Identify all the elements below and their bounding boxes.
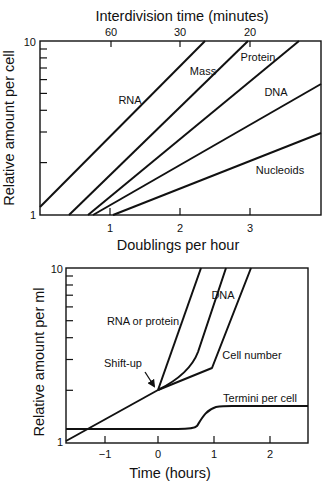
y-axis-ticks	[40, 49, 47, 163]
x-axis-label: Doublings per hour	[117, 237, 240, 253]
label-nucleoids: Nucleoids	[256, 164, 305, 176]
figure-canvas: Interdivision time (minutes) 60 30 20	[0, 0, 331, 493]
top-chart: Interdivision time (minutes) 60 30 20	[1, 8, 321, 253]
bottom-x-axis-ticks	[105, 436, 270, 443]
y-tick-label-10: 10	[24, 36, 36, 48]
bottom-chart: 10 1 −1 0 1 2 Time (hours) Relative amou…	[31, 263, 308, 481]
y-axis-label: Relative amount per cell	[1, 50, 17, 206]
bottom-x-tick-label-2: 2	[267, 448, 273, 460]
series-baseline-line	[66, 390, 158, 441]
label-cell-number: Cell number	[222, 349, 282, 361]
bottom-y-axis-label: Relative amount per ml	[31, 287, 47, 436]
label-rna: RNA	[118, 94, 142, 106]
bottom-y-tick-label-1: 1	[57, 436, 63, 448]
bottom-x-tick-label-0: 0	[155, 448, 161, 460]
shift-up-arrow-icon	[145, 372, 154, 386]
label-termini-per-cell: Termini per cell	[223, 392, 297, 404]
label-dna: DNA	[264, 86, 288, 98]
series-cell-number-line	[158, 268, 251, 390]
top-tick-label-30: 30	[174, 26, 186, 38]
top-axis-ticks	[111, 41, 250, 47]
series-dna-line	[158, 268, 226, 390]
label-rna-or-protein: RNA or protein	[107, 315, 179, 327]
label-dna: DNA	[211, 289, 235, 301]
top-series	[40, 41, 321, 215]
label-mass: Mass	[190, 65, 217, 77]
top-axis-label: Interdivision time (minutes)	[95, 8, 268, 24]
bottom-x-axis-label: Time (hours)	[129, 465, 211, 481]
x-tick-label-3: 3	[247, 222, 253, 234]
x-axis-ticks	[110, 208, 250, 215]
bottom-x-tick-label-1: 1	[211, 448, 217, 460]
x-tick-label-2: 2	[177, 222, 183, 234]
y-tick-label-1: 1	[30, 209, 36, 221]
label-shift-up: Shift-up	[104, 357, 142, 369]
bottom-x-tick-label-neg1: −1	[99, 448, 112, 460]
series-mass-line	[69, 41, 248, 215]
series-termini-line	[66, 406, 308, 429]
label-protein: Protein	[241, 51, 276, 63]
bottom-y-axis-ticks	[66, 276, 73, 390]
top-tick-label-60: 60	[105, 26, 117, 38]
x-tick-label-1: 1	[107, 222, 113, 234]
bottom-y-tick-label-10: 10	[51, 263, 63, 275]
series-rna-line	[40, 41, 205, 207]
top-tick-label-20: 20	[244, 26, 256, 38]
series-rna-protein-line	[158, 268, 201, 390]
